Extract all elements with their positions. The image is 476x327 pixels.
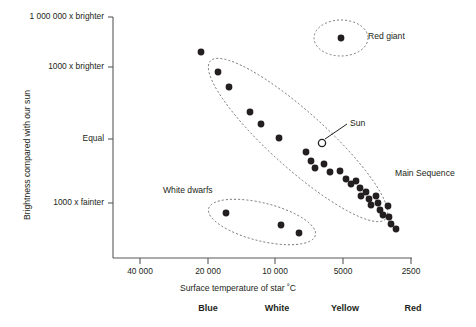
star-dot — [363, 189, 370, 196]
star-dot — [198, 49, 205, 56]
white-dwarfs-label: White dwarfs — [163, 185, 213, 195]
color-band-red: Red — [373, 303, 453, 313]
star-dot — [380, 212, 387, 219]
x-axis-title: Surface temperature of star ˚C — [0, 283, 476, 293]
star-dot — [357, 185, 364, 192]
star-points — [198, 35, 400, 237]
star-dot — [386, 214, 393, 221]
star-dot — [375, 200, 382, 207]
star-dot — [223, 210, 230, 217]
star-dot — [393, 226, 400, 233]
y-axis-title: Brightness compared with our sun — [22, 70, 32, 240]
sun-label: Sun — [350, 118, 365, 128]
star-dot — [278, 222, 285, 229]
star-dot — [247, 109, 254, 116]
star-dot — [215, 69, 222, 76]
y-tick-label-2: Equal — [0, 134, 104, 143]
star-dot — [258, 121, 265, 128]
star-dot — [338, 35, 345, 42]
sun-marker — [318, 139, 325, 146]
color-band-blue: Blue — [168, 303, 248, 313]
y-tick-label-1: 1000 x brighter — [0, 62, 104, 71]
sun-leader-line — [325, 124, 347, 139]
star-dot — [303, 149, 310, 156]
hr-diagram-figure: Brightness compared with our sun Surface… — [0, 0, 476, 327]
axes-group — [108, 17, 412, 264]
x-tick-label-4: 2500 — [371, 267, 451, 276]
red-giant-label: Red giant — [368, 31, 405, 41]
star-dot — [308, 158, 315, 165]
outline-white-dwarfs — [204, 190, 320, 253]
y-tick-label-3: 1000 x fainter — [0, 198, 104, 207]
star-dot — [226, 84, 233, 91]
star-dot — [368, 202, 375, 209]
group-outlines — [192, 20, 405, 254]
star-dot — [321, 161, 328, 168]
y-tick-label-0: 1 000 000 x brighter — [0, 12, 104, 21]
star-dot — [276, 135, 283, 142]
star-dot — [366, 196, 373, 203]
star-dot — [337, 168, 344, 175]
star-dot — [296, 230, 303, 237]
star-dot — [353, 178, 360, 185]
star-dot — [312, 165, 319, 172]
hr-diagram-canvas — [0, 0, 476, 327]
star-dot — [343, 176, 350, 183]
star-dot — [327, 169, 334, 176]
sun-leader — [325, 124, 347, 139]
star-dot — [373, 193, 380, 200]
outline-main-sequence — [192, 40, 405, 240]
main-sequence-label: Main Sequence — [395, 168, 455, 178]
star-dot — [385, 203, 392, 210]
star-dot — [388, 221, 395, 228]
